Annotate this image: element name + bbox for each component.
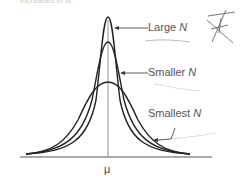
pencil-underline <box>172 133 216 139</box>
distribution-chart <box>0 0 248 186</box>
pencil-underline <box>155 84 200 91</box>
arrow-smaller-n <box>120 71 125 75</box>
label-smaller-n: Smaller N <box>148 66 196 78</box>
pencil-underline <box>145 40 190 42</box>
label-smallest-n: Smallest N <box>148 107 201 119</box>
arrow-large-n <box>114 26 119 30</box>
star-scribble-icon <box>207 10 235 43</box>
mean-label: μ <box>104 163 110 175</box>
label-large-n: Large N <box>148 21 187 33</box>
